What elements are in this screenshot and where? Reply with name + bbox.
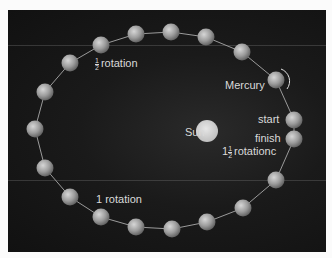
planet-mercury — [27, 121, 44, 138]
planets — [27, 24, 303, 238]
planet-mercury — [199, 214, 216, 231]
planet-mercury — [286, 131, 303, 148]
orbit-diagram — [0, 0, 332, 258]
planet-mercury — [268, 72, 285, 89]
planet-mercury — [286, 112, 303, 129]
planet-mercury — [163, 24, 180, 41]
finish-label: finish — [255, 132, 281, 144]
planet-mercury — [164, 221, 181, 238]
sun-label: Sun — [185, 126, 205, 138]
mercury-label: Mercury — [225, 79, 265, 91]
planet-mercury — [234, 44, 251, 61]
half-rotation-label: 12rotation — [95, 57, 138, 71]
planet-mercury — [37, 84, 54, 101]
one-half-rotations-label: 112rotationc — [222, 145, 276, 159]
planet-mercury — [93, 209, 110, 226]
planet-mercury — [93, 37, 110, 54]
one-rotation-label: 1 rotation — [96, 193, 142, 205]
planet-mercury — [198, 29, 215, 46]
planet-mercury — [37, 160, 54, 177]
start-label: start — [258, 113, 279, 125]
fraction: 12 — [95, 58, 99, 71]
planet-mercury — [128, 219, 145, 236]
planet-mercury — [62, 189, 79, 206]
planet-mercury — [268, 172, 285, 189]
planet-mercury — [128, 26, 145, 43]
fraction: 12 — [228, 146, 232, 159]
planet-mercury — [62, 55, 79, 72]
planet-mercury — [235, 200, 252, 217]
